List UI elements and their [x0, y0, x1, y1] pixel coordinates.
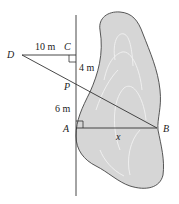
geometry-diagram: D C P A B 10 m 4 m 6 m x: [0, 0, 179, 204]
label-A: A: [62, 123, 70, 134]
island-shape: [76, 12, 164, 188]
label-P: P: [63, 81, 70, 92]
label-B: B: [163, 123, 169, 134]
measure-AB: x: [115, 131, 121, 142]
measure-DC: 10 m: [35, 41, 56, 52]
measure-PA: 6 m: [55, 103, 71, 114]
label-D: D: [6, 49, 15, 60]
right-angle-C: [69, 55, 76, 62]
label-C: C: [64, 41, 71, 52]
measure-CP: 4 m: [79, 62, 95, 73]
